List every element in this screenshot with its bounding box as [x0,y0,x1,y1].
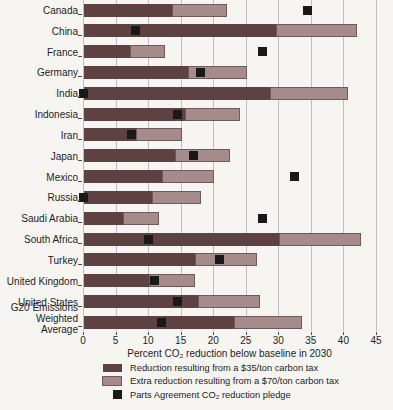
bar-segment-70tax-extra [136,128,182,141]
pledge-square-marker [150,276,159,285]
x-axis-tick-label: 35 [298,335,324,346]
x-axis-tick-label: 25 [233,335,259,346]
legend: Reduction resulting from a $35/ton carbo… [0,363,393,404]
y-axis-tick [78,56,82,57]
legend-swatch-box [102,376,122,386]
y-axis-tick [78,160,82,161]
y-axis-tick [78,181,82,182]
y-axis-label: G20 Emissions Weighted Average [0,302,78,335]
bar-segment-35tax [84,66,188,79]
y-axis-label: United Kingdom [0,275,78,286]
bar-segment-35tax [84,212,123,225]
bar-segment-70tax-extra [152,191,201,204]
gridline-x-20 [213,0,214,331]
y-axis-tick [78,285,82,286]
bar-segment-35tax [84,87,270,100]
x-axis-tick-label: 40 [330,335,356,346]
x-axis-title: Percent CO₂ reduction below baseline in … [83,348,376,359]
tax35-swatch-icon [103,364,122,372]
y-axis-label: Indonesia [0,109,78,120]
bar-segment-35tax [84,253,195,266]
x-axis-tick-label: 30 [265,335,291,346]
y-axis-tick [78,243,82,244]
bar-segment-70tax-extra [234,316,302,329]
bar-segment-70tax-extra [123,212,159,225]
legend-swatch-box [102,364,122,372]
pledge-square-marker [157,318,166,327]
y-axis-label: Saudi Arabia [0,213,78,224]
pledge-square-marker [131,26,140,35]
pledge-square-marker [215,255,224,264]
y-axis-tick [78,139,82,140]
bar-segment-70tax-extra [175,149,230,162]
pledge-square-marker [79,193,88,202]
y-axis-tick [78,14,82,15]
legend-item-70ton-tax: Extra reduction resulting from a $70/ton… [102,377,393,386]
bar-segment-70tax-extra [270,87,348,100]
pledge-square-marker [173,297,182,306]
plot-area: CanadaChinaFranceGermanyIndiaIndonesiaIr… [0,0,393,332]
y-axis-label: Japan [0,150,78,161]
y-axis-label: France [0,46,78,57]
bar-segment-70tax-extra [198,295,260,308]
bar-segment-35tax [84,191,152,204]
bar-segment-35tax [84,45,130,58]
pledge-square-marker [290,172,299,181]
legend-swatch-box [102,390,122,399]
pledge-square-marker [79,89,88,98]
bar-segment-70tax-extra [195,253,257,266]
y-axis-label: South Africa [0,234,78,245]
bar-segment-70tax-extra [172,4,227,17]
bar-segment-35tax [84,108,185,121]
bar-segment-35tax [84,170,162,183]
legend-label-70ton-tax: Extra reduction resulting from a $70/ton… [130,376,339,386]
gridline-x-35 [311,0,312,331]
legend-item-pledge: Parts Agreement CO₂ reduction pledge [102,390,393,399]
y-axis-tick [78,35,82,36]
bar-segment-70tax-extra [279,233,360,246]
y-axis-tick [78,306,82,307]
y-axis-label: China [0,25,78,36]
bar-segment-70tax-extra [276,24,357,37]
y-axis-tick [78,326,82,327]
y-axis-tick [78,222,82,223]
bar-segment-35tax [84,149,175,162]
pledge-square-marker [258,214,267,223]
x-axis-tick-label: 0 [70,335,96,346]
x-axis-tick-label: 15 [168,335,194,346]
y-axis-tick [78,264,82,265]
x-axis-tick-label: 45 [363,335,389,346]
y-axis-label: Germany [0,67,78,78]
bar-segment-35tax [84,4,172,17]
pledge-square-marker [196,68,205,77]
x-axis-tick-label: 10 [135,335,161,346]
bar-segment-70tax-extra [130,45,166,58]
tax70-swatch-icon [102,376,122,386]
bar-segment-35tax [84,274,149,287]
bar-segment-70tax-extra [162,170,214,183]
y-axis-label: Iran [0,129,78,140]
y-axis-tick [78,118,82,119]
bar-segment-70tax-extra [185,108,240,121]
pledge-square-marker [127,130,136,139]
y-axis-label: Canada [0,5,78,16]
bar-segment-35tax [84,233,279,246]
gridline-x-40 [343,0,344,331]
gridline-x-30 [278,0,279,331]
y-axis-label: Turkey [0,254,78,265]
gridline-x-25 [246,0,247,331]
pledge-square-marker [303,6,312,15]
pledge-square-marker [258,47,267,56]
y-axis-label: India [0,88,78,99]
gridline-x-45 [376,0,377,331]
y-axis-tick [78,76,82,77]
y-axis-label: Russia [0,192,78,203]
pledge-square-marker [189,151,198,160]
legend-label-35ton-tax: Reduction resulting from a $35/ton carbo… [130,363,318,373]
x-axis-tick-label: 20 [200,335,226,346]
bar-segment-35tax [84,24,276,37]
pledge-swatch-icon [113,390,122,399]
legend-item-35ton-tax: Reduction resulting from a $35/ton carbo… [102,363,393,372]
x-axis-tick-label: 5 [103,335,129,346]
carbon-tax-reduction-chart: CanadaChinaFranceGermanyIndiaIndonesiaIr… [0,0,393,410]
